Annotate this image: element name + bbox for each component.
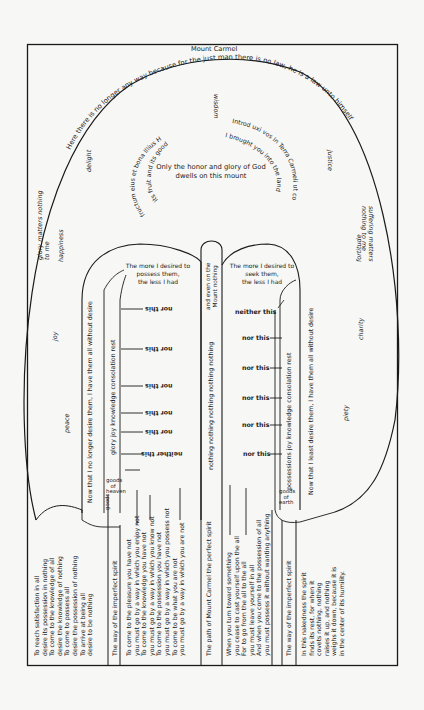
col7-line: In this nakedness the spirit [300,567,308,656]
col3-line: To come to the possession you have not [155,508,163,656]
col7-line: raises it up, and nothing [323,567,331,656]
left-tower-base-label: goods [105,494,111,510]
virtue-charity: charity [358,318,364,340]
ring-left-inner-text: its fruit and its good things, (Jer. 2,7… [0,0,169,204]
col1-line: To come to possess all [63,556,71,656]
ring-left-text: fructum eius et bona Illius Hier. 2 [0,0,163,219]
left-tower-base-stack: goods of heaven [106,478,120,495]
col3-line: To come to the knowledge you have not [140,508,148,656]
right-tower-inner-label: possessions joy knowledge consolation re… [286,353,292,490]
col3-line: you must go by a way in which you enjoy … [133,508,141,656]
col5-line: you cease to cast yourself upon the all [233,513,241,656]
bottom-column-1: To reach satisfaction in all desire its … [33,556,94,656]
right-branch-1: neither this [235,309,276,315]
base-earth: earth [279,500,293,506]
col1-line: desire the knowledge of nothing [56,556,64,656]
right-tower-side-label: Now that I least desire them, I have the… [308,308,314,495]
right-arch-line-3: the less I had [226,278,298,286]
col5-line: When you turn toward something [225,513,233,656]
bottom-column-3: To come to the pleasure you have not you… [125,508,186,656]
left-branch-5: nor this [145,429,173,435]
summit-center-line-1: Only the honor and glory of God [150,163,272,172]
col5-line: For to go from the all to the all [240,513,248,656]
col3-line: To come to the pleasure you have not [125,508,133,656]
left-branch-1: nor this [145,306,173,312]
virtue-joy: joy [52,332,58,341]
col5-line: you must leave yourself in all [248,513,256,656]
col7-line: finds its rest, for when it [308,567,316,656]
mount-carmel-diagram: Here there is no longer any way because … [0,0,424,710]
col7-line: in the center of its humility. [338,567,346,656]
bottom-column-4: The path of Mount Carmel the perfect spi… [205,521,213,656]
right-arch-line-1: The more I desired to [226,262,298,270]
diagram-title: Mount Carmel [191,46,237,53]
bottom-column-6: The way of the imperfect spirit [285,561,293,656]
base-heaven: heaven [106,489,120,495]
virtue-delight: delight [86,150,92,172]
center-top-line-1: and even on the [205,263,212,310]
virtue-piety: piety [343,405,349,421]
left-tower-side-label: Now that I no longer desire them, I have… [87,301,93,503]
col6-line: The way of the imperfect spirit [285,561,293,656]
virtue-justice: justice [327,150,333,171]
right-branch-2: nor this [242,335,270,341]
left-arch-line-2: possess them, [120,270,196,278]
col1-line: To reach satisfaction in all [33,556,41,656]
right-branch-6: nor this [243,451,271,457]
col3-line: you must go by a way in which you are no… [178,508,186,656]
left-branch-6: neither this [141,451,182,457]
col1-line: To come to the knowledge of all [48,556,56,656]
summit-center-line-2: dwells on this mount [150,172,272,181]
col1-line: desire the possession of nothing [71,556,79,656]
virtue-glory-matters-nothing: glory matters nothing to me [37,190,51,260]
col5-line: you must possess it without wanting anyt… [263,513,271,656]
col1-line: desire its possession in nothing [41,556,49,656]
left-arch-line-1: The more I desired to [120,262,196,270]
virtue-happiness: happiness [58,230,64,263]
bottom-column-5: When you turn toward something you cease… [225,513,271,656]
virtue-wisdom: wisdom [213,94,219,119]
col7-line: weighs it down, because it is [330,567,338,656]
left-branch-2: nor this [145,346,173,352]
center-top-line-2: Mount nothing [212,263,219,310]
left-tower-arch: The more I desired to possess them, the … [120,262,196,286]
left-tower-inner-label: glory joy knowledge consolation rest [110,339,116,455]
right-branch-5: nor this [242,422,270,428]
right-tower-arch: The more I desired to seek them, the les… [226,262,298,286]
right-branch-4: nor this [242,395,270,401]
bottom-column-2: The way of the imperfect spirit [111,561,119,656]
summit-arc-text: Here there is no longer any way because … [65,53,355,151]
col7-line: covets nothing, nothing [315,567,323,656]
col3-line: you must go by a way in which you posses… [163,508,171,656]
col1-line: desire to be nothing [86,556,94,656]
virtue-fortitude: fortitude [356,234,362,262]
right-branch-3: nor this [242,365,270,371]
col5-line: And when you come to the possession of a… [255,513,263,656]
summit-center-message: Only the honor and glory of God dwells o… [150,163,272,180]
left-arch-line-3: the less I had [120,278,196,286]
left-branch-3: nor this [145,383,173,389]
col4-line: The path of Mount Carmel the perfect spi… [205,521,213,656]
center-column-body: nothing nothing nothing nothing nothing [208,342,214,470]
right-tower-base-stack: goods of earth [279,489,293,506]
virtue-peace: peace [64,414,70,433]
col2-line: The way of the imperfect spirit [111,561,119,656]
right-arch-line-2: seek them, [226,270,298,278]
base-word: goods [104,494,110,510]
bottom-column-7: In this nakedness the spirit finds its r… [300,567,346,656]
col3-line: To come to be what you are not [171,508,179,656]
center-column-top: and even on the Mount nothing [205,263,219,310]
col3-line: you must go by a way in which you know n… [148,508,156,656]
col1-line: To arrive at being all [79,556,87,656]
left-branch-4: nor this [145,410,173,416]
